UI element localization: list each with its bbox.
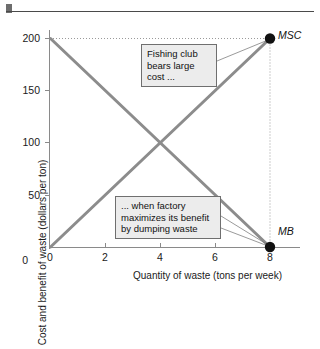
mb-curve-label: MB bbox=[278, 225, 294, 237]
fishing-club-callout-line1: Fishing club bbox=[147, 48, 211, 60]
fishing-club-callout: Fishing club bears large cost ... bbox=[141, 44, 217, 87]
factory-benefit-callout: ... when factory maximizes its benefit b… bbox=[115, 196, 221, 239]
fishing-club-callout-line3: cost ... bbox=[147, 71, 211, 83]
msc-point-marker bbox=[265, 33, 275, 43]
mb-point-marker bbox=[265, 242, 275, 252]
factory-benefit-callout-line1: ... when factory bbox=[121, 200, 215, 212]
msc-curve-label: MSC bbox=[278, 29, 301, 41]
callout-top-leader bbox=[217, 40, 268, 61]
factory-benefit-callout-line3: by dumping waste bbox=[121, 223, 215, 235]
factory-benefit-callout-line2: maximizes its benefit bbox=[121, 212, 215, 224]
fishing-club-callout-line2: bears large bbox=[147, 60, 211, 72]
